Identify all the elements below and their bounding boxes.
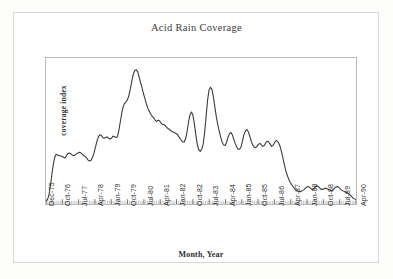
data-line-coverage-index [46, 70, 356, 201]
x-axis-title: Month, Year [45, 250, 357, 259]
x-tick-label: Apr-78 [97, 184, 104, 206]
x-tick-label: Oct-88 [327, 184, 334, 206]
x-tick-label: Dec-75 [48, 182, 55, 206]
x-tick-label: Jan-88 [311, 183, 318, 206]
x-tick-label: Jan-85 [245, 183, 252, 206]
x-tick-label: Oct-85 [261, 184, 268, 206]
x-tick-label: Oct-76 [64, 184, 71, 206]
x-axis-tick-labels: Dec-75Oct-76Jul-77Apr-78Jan-79Oct-79Jul-… [45, 206, 357, 250]
x-tick-label: Jul-86 [278, 186, 285, 206]
x-tick-label: Oct-79 [130, 184, 137, 206]
x-tick-label: Jan-82 [179, 183, 186, 206]
x-tick-label: Jul-83 [212, 186, 219, 206]
x-tick-label: Jan-79 [114, 183, 121, 206]
x-tick-label: Jul-89 [344, 186, 351, 206]
chart-title: Acid Rain Coverage [0, 22, 393, 33]
x-tick-label: Apr-81 [163, 184, 170, 206]
x-tick-label: Apr-84 [229, 184, 236, 206]
x-tick-label: Apr-90 [360, 184, 367, 206]
x-tick-label: Apr-87 [294, 184, 301, 206]
chart-figure: Acid Rain Coverage coverage index Dec-75… [0, 0, 393, 279]
plot-canvas [46, 58, 356, 204]
x-tick-label: Jul-80 [147, 186, 154, 206]
x-tick-label: Jul-77 [81, 186, 88, 206]
x-tick-label: Oct-82 [196, 184, 203, 206]
y-axis-title: coverage index [59, 51, 68, 171]
